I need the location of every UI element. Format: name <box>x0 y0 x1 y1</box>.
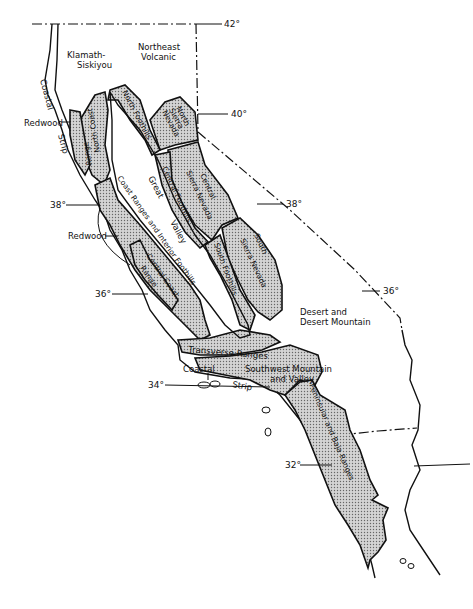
channel-island <box>198 382 210 388</box>
label-klamath-siskiyou: Siskiyou <box>77 60 112 70</box>
label-northeast-volcanic: Volcanic <box>141 52 176 62</box>
channel-island <box>262 407 270 413</box>
lat-label-36-west: 36° <box>95 289 111 299</box>
lat-line-32-east <box>414 464 470 466</box>
label-coastal-strip-south: Strip <box>232 379 253 392</box>
label-coastal-strip-north: Strip <box>56 133 71 155</box>
lat-label-34: 34° <box>148 380 164 390</box>
california-bioregion-map: 42° 40° 38° 38° 36° 36° 34° 32° Klamath-… <box>0 0 473 609</box>
lat-label-40: 40° <box>231 109 247 119</box>
lat-label-42: 42° <box>224 19 240 29</box>
label-redwood-south: Redwood <box>68 231 107 241</box>
colorado-river <box>402 330 440 575</box>
label-desert-desert-mountain: Desert and <box>300 307 347 317</box>
lat-label-32: 32° <box>285 460 301 470</box>
baja-island <box>408 564 414 569</box>
label-desert-desert-mountain: Desert Mountain <box>300 317 371 327</box>
label-southwest-mountain-valley: and Valley <box>270 374 314 384</box>
lat-label-38-west: 38° <box>50 200 66 210</box>
label-klamath-siskiyou: Klamath- <box>67 50 105 60</box>
label-southwest-mountain-valley: Southwest Mountain <box>245 364 332 374</box>
region-peninsular-baja-ranges <box>285 380 388 568</box>
label-coastal-strip-north: Coastal <box>38 78 56 111</box>
lat-label-36-east: 36° <box>383 286 399 296</box>
channel-island <box>265 428 271 436</box>
label-coastal-strip-south: Coastal <box>183 364 215 374</box>
label-northeast-volcanic: Northeast <box>138 42 181 52</box>
label-redwood-north: Redwood <box>24 118 63 128</box>
baja-island <box>400 559 406 564</box>
lat-label-38-east: 38° <box>286 199 302 209</box>
